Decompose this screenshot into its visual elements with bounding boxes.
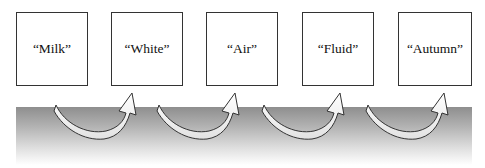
arrows-layer — [0, 0, 485, 168]
curved-arrow-icon — [157, 93, 239, 139]
curved-arrow-icon — [54, 93, 136, 139]
curved-arrow-icon — [262, 93, 344, 139]
curved-arrow-icon — [366, 93, 448, 139]
